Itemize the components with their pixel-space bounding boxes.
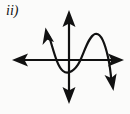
coordinate-graph [0, 0, 130, 114]
cubic-curve-path [49, 34, 112, 82]
curve-start-arrowhead [43, 28, 55, 46]
figure-canvas: ii) [0, 0, 130, 114]
y-axis-group [63, 10, 76, 104]
